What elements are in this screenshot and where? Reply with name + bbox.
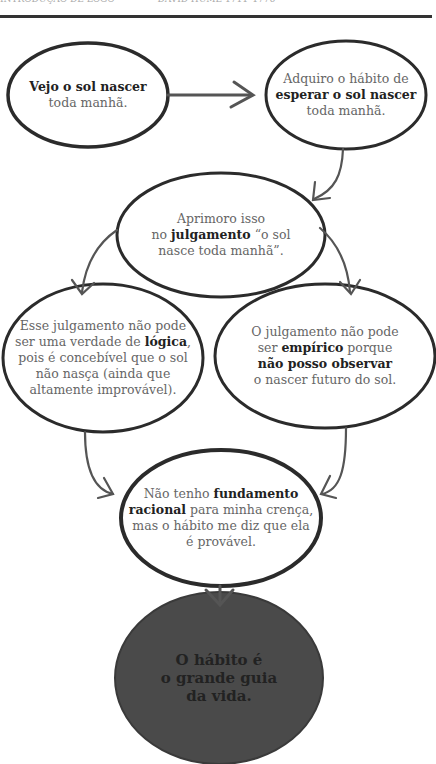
node-conclusion: O hábito éo grande guiada vida. [115,592,323,764]
emphasis-text: o grande guia [161,669,277,687]
node-text-line: toda manhã. [276,103,417,119]
node-no-rational-basis: Não tenho fundamentoracional para minha … [121,450,321,586]
node-text-line: nasce toda manhã”. [152,243,291,259]
node-text-line: ser uma verdade de lógica, [15,334,191,350]
node-text: Vejo o sol nascertoda manhã. [29,79,146,111]
plain-text: não nasça (ainda que [36,366,171,381]
plain-text: ser [258,340,282,355]
node-text-line: Não tenho fundamento [129,486,313,502]
emphasis-text: fundamento [214,486,299,501]
node-text-line: O julgamento não pode [251,324,398,340]
plain-text: Esse julgamento não pode [20,318,186,333]
node-text-line: altamente improvável). [15,382,191,398]
emphasis-text: da vida. [186,687,251,705]
plain-text: pois é concebível que o sol [18,350,188,365]
node-text-line: não nasça (ainda que [15,366,191,382]
emphasis-text: julgamento [171,227,251,242]
node-text-line: não posso observar [251,356,398,372]
node-text-line: O hábito é [161,651,277,669]
node-text-line: racional para minha crença, [129,502,313,518]
node-text-line: no julgamento “o sol [152,227,291,243]
node-text-line: é provável. [129,534,313,550]
plain-text: toda manhã. [49,95,128,110]
plain-text: Adquiro o hábito de [283,71,408,86]
emphasis-text: empírico [281,340,343,355]
emphasis-text: Vejo o sol nascer [29,79,146,94]
node-habit: Adquiro o hábito deesperar o sol nascert… [266,41,426,149]
arrow-n5-n6 [321,428,346,498]
emphasis-text: lógica [145,334,187,349]
plain-text: O julgamento não pode [251,324,398,339]
node-text-line: Esse julgamento não pode [15,318,191,334]
node-text-line: da vida. [161,687,277,705]
node-text: Não tenho fundamentoracional para minha … [129,486,313,550]
node-text-line: Vejo o sol nascer [29,79,146,95]
node-observation: Vejo o sol nascertoda manhã. [8,43,168,147]
node-text-line: toda manhã. [29,95,146,111]
plain-text: para minha crença, [186,502,313,517]
plain-text: toda manhã. [307,103,386,118]
node-text-line: o grande guia [161,669,277,687]
node-text: Adquiro o hábito deesperar o sol nascert… [276,71,417,119]
node-not-logic: Esse julgamento não podeser uma verdade … [3,284,203,432]
plain-text: é provável. [186,534,256,549]
node-text-line: pois é concebível que o sol [15,350,191,366]
node-text-line: mas o hábito me diz que ela [129,518,313,534]
plain-text: o nascer futuro do sol. [254,372,396,387]
plain-text: mas o hábito me diz que ela [132,518,309,533]
emphasis-text: esperar o sol nascer [276,87,417,102]
plain-text: Não tenho [144,486,214,501]
node-text: Esse julgamento não podeser uma verdade … [15,318,191,398]
node-text-line: o nascer futuro do sol. [251,372,398,388]
arrow-n4-n6 [85,432,113,498]
plain-text: altamente improvável). [30,382,177,397]
emphasis-text: racional [129,502,186,517]
plain-text: , [187,334,191,349]
node-text: O hábito éo grande guiada vida. [161,651,277,705]
plain-text: ser uma verdade de [15,334,145,349]
emphasis-text: não posso observar [258,356,392,371]
node-text-line: esperar o sol nascer [276,87,417,103]
arrow-n1-n2 [168,82,253,107]
plain-text: nasce toda manhã”. [158,243,284,258]
node-text-line: ser empírico porque [251,340,398,356]
node-text: O julgamento não podeser empírico porque… [251,324,398,388]
emphasis-text: O hábito é [176,651,263,669]
node-text: Aprimoro issono julgamento “o solnasce t… [152,211,291,259]
plain-text: “o sol [251,227,291,242]
plain-text: porque [343,340,392,355]
node-text-line: Adquiro o hábito de [276,71,417,87]
plain-text: Aprimoro isso [177,211,265,226]
node-text-line: Aprimoro isso [152,211,291,227]
plain-text: no [152,227,172,242]
node-not-empirical: O julgamento não podeser empírico porque… [215,284,435,428]
node-judgment: Aprimoro issono julgamento “o solnasce t… [117,173,325,297]
